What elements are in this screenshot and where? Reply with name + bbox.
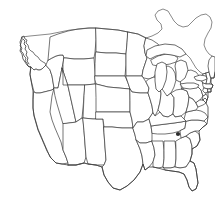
state-north-dakota [96,28,128,54]
state-kansas [96,84,130,112]
location-marker-dot[interactable] [176,132,180,136]
state-alabama [163,141,176,168]
state-rhode-island [208,89,211,92]
state-washington [20,36,46,70]
state-south-dakota [95,52,126,76]
lake-erie [180,83,199,89]
state-new-mexico [83,118,106,165]
state-wyoming [63,58,95,85]
us-outline-map [0,0,215,207]
us-outline-map-figure [0,0,215,207]
state-arizona [63,118,86,165]
